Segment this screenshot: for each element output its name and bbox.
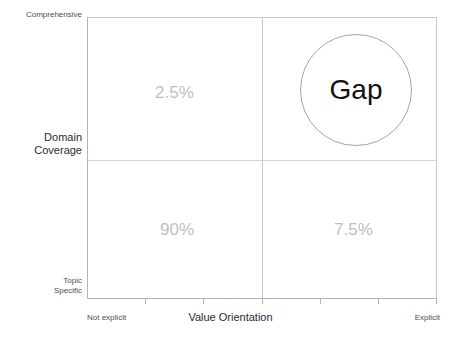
- x-axis-tick-2: [203, 299, 204, 304]
- quadrant-divider-vertical: [262, 17, 263, 299]
- quadrant-divider-horizontal: [87, 160, 437, 161]
- x-axis-tick-6: [436, 299, 437, 304]
- x-axis-tick-4: [320, 299, 321, 304]
- quadrant-label-bottom-right: 7.5%: [334, 221, 373, 238]
- y-axis-min-label-line1: Topic: [0, 276, 82, 286]
- gap-bubble: Gap: [300, 34, 412, 146]
- quadrant-label-top-left: 2.5%: [155, 84, 194, 101]
- y-axis-max-label: Comprehensive: [0, 10, 82, 20]
- y-axis-title-line2: Coverage: [0, 144, 82, 157]
- y-axis-min-label: Topic Specific: [0, 276, 82, 296]
- quadrant-label-bottom-left: 90%: [160, 221, 194, 238]
- gap-bubble-label: Gap: [330, 76, 383, 104]
- y-axis-title-line1: Domain: [0, 131, 82, 144]
- x-axis-max-label: Explicit: [0, 313, 440, 323]
- y-axis-min-label-line2: Specific: [0, 286, 82, 296]
- quadrant-chart: 2.5% 90% 7.5% Gap Value Orientation Doma…: [0, 0, 461, 338]
- y-axis-title: Domain Coverage: [0, 131, 82, 158]
- x-axis-tick-3: [262, 299, 263, 304]
- x-axis-tick-5: [378, 299, 379, 304]
- y-axis-line: [87, 17, 88, 299]
- x-axis-tick-1: [145, 299, 146, 304]
